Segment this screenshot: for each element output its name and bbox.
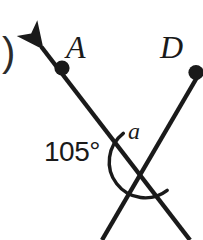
- problem-marker-label: ): [2, 32, 15, 72]
- point-label-d: D: [160, 31, 183, 63]
- point-label-a: A: [66, 31, 86, 63]
- known-angle-label: 105°: [44, 138, 100, 166]
- line-through-d: [102, 74, 199, 240]
- unknown-angle-label: a: [128, 119, 140, 143]
- geometry-diagram-canvas: ) A D 105° a: [0, 0, 203, 240]
- point-marker-d: [188, 65, 203, 80]
